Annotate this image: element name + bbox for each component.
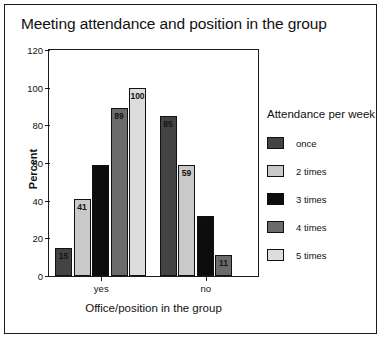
y-tick-mark (45, 163, 50, 164)
y-tick-label: 20 (32, 233, 43, 244)
bar-yes-4-times[interactable]: 89 (111, 108, 128, 276)
legend-item-5-times[interactable]: 5 times (267, 243, 371, 267)
y-tick-label: 80 (32, 120, 43, 131)
x-tick-mark (206, 276, 207, 281)
legend-swatch (267, 165, 284, 177)
y-tick-mark (45, 50, 50, 51)
bar-yes-once[interactable]: 15 (55, 248, 72, 276)
bar-value-label: 15 (59, 252, 68, 261)
legend-item-once[interactable]: once (267, 131, 371, 155)
legend-swatch (267, 137, 284, 149)
legend: Attendance per week once2 times3 times4 … (267, 108, 371, 271)
chart-title: Meeting attendance and position in the g… (21, 15, 327, 33)
legend-label: once (296, 138, 317, 149)
bar-group-yes: 15415989100 (55, 50, 148, 276)
legend-title: Attendance per week (267, 108, 371, 120)
legend-item-2-times[interactable]: 2 times (267, 159, 371, 183)
legend-item-3-times[interactable]: 3 times (267, 187, 371, 211)
bar-value-label: 32 (200, 220, 209, 229)
legend-label: 5 times (296, 250, 327, 261)
legend-label: 2 times (296, 166, 327, 177)
bar-yes-3-times[interactable]: 59 (92, 165, 109, 276)
bar-value-label: 59 (182, 169, 191, 178)
y-tick-label: 100 (27, 82, 43, 93)
x-axis-title: Office/position in the group (48, 302, 259, 314)
bar-no-once[interactable]: 85 (160, 116, 177, 276)
chart-figure: Meeting attendance and position in the g… (4, 4, 377, 334)
y-tick-mark (45, 88, 50, 89)
bar-value-label: 11 (219, 259, 228, 268)
plot-area: 02040608010012015415989100yes85593211no (48, 49, 259, 277)
y-tick-label: 0 (38, 271, 43, 282)
y-tick-mark (45, 276, 50, 277)
y-tick-label: 60 (32, 158, 43, 169)
bar-group-no: 85593211 (160, 50, 253, 276)
bar-value-label: 41 (77, 203, 86, 212)
bar-no-3-times[interactable]: 32 (197, 216, 214, 276)
bar-value-label: 59 (96, 169, 105, 178)
legend-swatch (267, 193, 284, 205)
bar-no-2-times[interactable]: 59 (178, 165, 195, 276)
y-tick-mark (45, 201, 50, 202)
y-tick-mark (45, 238, 50, 239)
x-tick-label-yes: yes (94, 283, 109, 294)
legend-swatch (267, 221, 284, 233)
bar-value-label: 100 (130, 92, 144, 101)
legend-label: 4 times (296, 222, 327, 233)
bar-value-label: 85 (163, 120, 172, 129)
y-tick-mark (45, 125, 50, 126)
y-axis-title: Percent (27, 149, 39, 189)
x-tick-mark (101, 276, 102, 281)
bar-yes-5-times[interactable]: 100 (129, 88, 146, 276)
bar-value-label: 89 (114, 112, 123, 121)
plot-inner: 02040608010012015415989100yes85593211no (49, 50, 258, 276)
x-tick-label-no: no (200, 283, 211, 294)
legend-item-4-times[interactable]: 4 times (267, 215, 371, 239)
y-tick-label: 40 (32, 195, 43, 206)
legend-swatch (267, 249, 284, 261)
y-tick-label: 120 (27, 45, 43, 56)
bar-yes-2-times[interactable]: 41 (74, 199, 91, 276)
bar-no-4-times[interactable]: 11 (215, 255, 232, 276)
legend-items: once2 times3 times4 times5 times (267, 131, 371, 267)
legend-label: 3 times (296, 194, 327, 205)
